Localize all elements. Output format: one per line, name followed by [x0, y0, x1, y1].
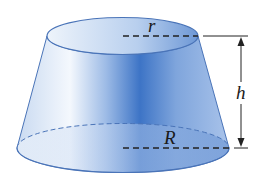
label-top-radius: r	[148, 15, 156, 36]
frustum-diagram: r R h	[0, 0, 263, 176]
arrowhead-up-icon	[238, 37, 245, 46]
label-bottom-radius: R	[163, 127, 176, 148]
label-height: h	[236, 82, 246, 103]
arrowhead-down-icon	[238, 138, 245, 147]
